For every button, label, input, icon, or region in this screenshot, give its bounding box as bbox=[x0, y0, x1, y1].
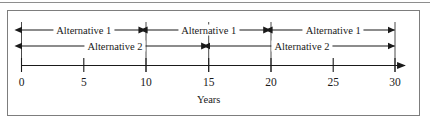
time-axis bbox=[22, 58, 406, 72]
alt1-segment-20-30-label: Alternative 1 bbox=[303, 25, 364, 36]
axis-tick-label-30: 30 bbox=[389, 76, 401, 88]
axis-tick-label-10: 10 bbox=[140, 76, 152, 88]
figure-root: Alternative 1 Alternative 1 Alternative … bbox=[0, 0, 430, 126]
axis-tick-label-5: 5 bbox=[81, 76, 87, 88]
alt1-segment-10-20-label: Alternative 1 bbox=[178, 25, 239, 36]
axis-tick-label-25: 25 bbox=[327, 76, 339, 88]
alt2-segment-15-30-label: Alternative 2 bbox=[271, 41, 332, 52]
axis-tick-label-20: 20 bbox=[265, 76, 277, 88]
axis-tick-label-0: 0 bbox=[19, 76, 25, 88]
alt1-segment-0-10-label: Alternative 1 bbox=[53, 25, 114, 36]
axis-tick-label-15: 15 bbox=[203, 76, 215, 88]
timeline-graphic bbox=[0, 0, 430, 126]
axis-title-years: Years bbox=[197, 94, 220, 106]
alt2-segment-0-15-label: Alternative 2 bbox=[84, 41, 145, 52]
